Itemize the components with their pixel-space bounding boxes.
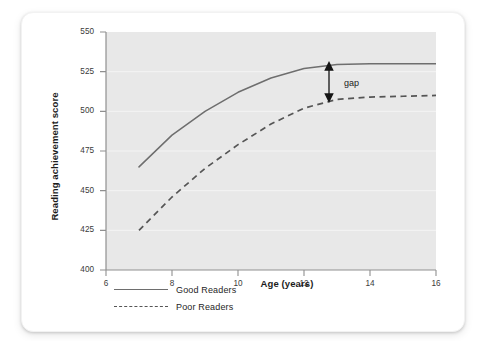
y-axis-title: Reading achievement score — [49, 67, 60, 247]
y-tick-label: 525 — [68, 67, 94, 76]
legend-dashed-line-icon — [114, 301, 168, 313]
legend-item-good-readers: Good Readers — [114, 281, 236, 298]
legend-label: Good Readers — [176, 285, 236, 295]
y-tick-label: 425 — [68, 225, 94, 234]
reading-achievement-chart: 550 525 500 475 450 425 400 6 8 10 12 14… — [22, 13, 464, 331]
x-axis-ticks — [106, 270, 436, 276]
chart-legend: Good Readers Poor Readers — [114, 281, 236, 315]
y-tick-label: 450 — [68, 186, 94, 195]
gap-annotation-label: gap — [344, 78, 359, 88]
y-tick-label: 550 — [68, 27, 94, 36]
y-tick-label: 400 — [68, 265, 94, 274]
y-tick-label: 500 — [68, 106, 94, 115]
legend-solid-line-icon — [114, 284, 168, 296]
figure-card: 550 525 500 475 450 425 400 6 8 10 12 14… — [21, 12, 465, 332]
legend-label: Poor Readers — [176, 302, 233, 312]
legend-item-poor-readers: Poor Readers — [114, 298, 236, 315]
x-tick-label: 6 — [96, 279, 116, 288]
y-tick-label: 475 — [68, 146, 94, 155]
y-axis-ticks — [100, 32, 106, 270]
